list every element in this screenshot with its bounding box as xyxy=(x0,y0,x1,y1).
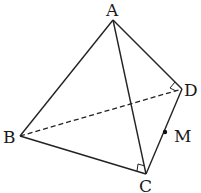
label-b: B xyxy=(3,127,16,147)
edge-ab xyxy=(20,20,113,136)
point-m-dot xyxy=(163,130,167,134)
right-angle-mark-d xyxy=(170,82,176,91)
tetrahedron-diagram: A B C D M xyxy=(0,0,201,193)
label-c: C xyxy=(139,176,152,193)
edge-ac xyxy=(113,20,146,174)
label-d: D xyxy=(184,80,198,100)
label-a: A xyxy=(105,0,119,20)
edge-bc xyxy=(20,136,146,174)
edge-ad xyxy=(113,20,182,89)
edge-bd-hidden xyxy=(20,89,182,136)
label-m: M xyxy=(174,126,191,146)
